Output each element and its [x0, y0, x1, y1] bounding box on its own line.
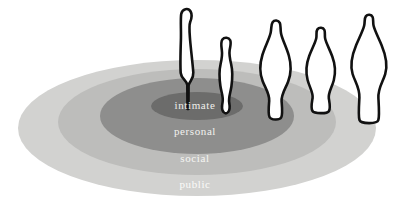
proxemics-diagram: intimate personal social public	[0, 0, 397, 209]
diagram-canvas	[0, 0, 397, 209]
figure-personal-distance-near	[220, 38, 233, 114]
